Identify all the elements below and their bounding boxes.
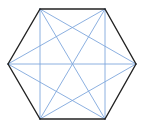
edge-CD xyxy=(105,64,136,119)
edge-FA xyxy=(8,9,40,64)
diagonal-DF xyxy=(8,64,105,119)
edge-BC xyxy=(105,9,136,64)
diagonal-CE xyxy=(40,64,136,119)
diagonal-BF xyxy=(8,9,105,64)
diagonal-AC xyxy=(40,9,136,64)
hexagon-diagram xyxy=(0,0,147,132)
diagonal-lines xyxy=(8,9,136,119)
edge-EF xyxy=(8,64,40,119)
